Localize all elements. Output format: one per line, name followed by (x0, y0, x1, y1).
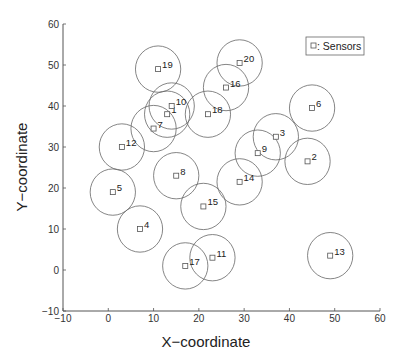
sensor-id-label: 19 (162, 59, 173, 70)
sensor-point: 12 (119, 137, 136, 150)
x-tick-label: 20 (193, 313, 205, 324)
sensor-square-icon (169, 104, 174, 109)
sensor-square-icon (224, 85, 229, 90)
sensor-square-icon (210, 255, 215, 260)
sensor-square-icon (255, 151, 260, 156)
sensor-point: 20 (237, 53, 254, 65)
sensor-square-icon (201, 204, 206, 209)
y-tick-label: 50 (48, 60, 60, 71)
sensor-id-label: 14 (244, 172, 255, 183)
sensor-point: 16 (224, 78, 241, 91)
sensor-square-icon (237, 60, 242, 65)
sensor-square-icon (328, 253, 333, 258)
sensor-id-label: 16 (230, 78, 241, 89)
legend-label: : Sensors (317, 40, 361, 52)
sensor-square-icon (305, 159, 310, 164)
sensor-point: 11 (210, 248, 226, 261)
sensor-square-icon (174, 173, 179, 178)
sensor-square-icon (237, 179, 242, 184)
sensor-id-label: 7 (158, 119, 163, 130)
sensor-point: 2 (305, 151, 317, 164)
x-tick-label: 10 (148, 313, 160, 324)
sensor-id-label: 6 (316, 98, 321, 109)
sensor-square-icon (165, 112, 170, 117)
sensor-id-label: 15 (207, 196, 218, 207)
sensor-point: 19 (156, 59, 173, 72)
sensor-id-label: 2 (312, 151, 317, 162)
sensor-square-icon (310, 106, 315, 111)
y-tick-label: 20 (48, 183, 60, 194)
sensor-id-label: 18 (212, 104, 223, 115)
sensor-id-label: 12 (126, 137, 137, 148)
sensor-point: 4 (137, 219, 149, 232)
sensor-point: 18 (205, 104, 222, 117)
sensor-id-label: 17 (189, 256, 200, 267)
sensor-point: 6 (310, 98, 322, 111)
sensor-id-label: 8 (180, 166, 185, 177)
sensor-square-icon (137, 227, 142, 232)
sensor-id-label: 13 (334, 246, 345, 257)
sensor-scatter-chart: −100102030405060−100102030405060 1234567… (0, 0, 403, 361)
sensor-point: 3 (273, 127, 285, 140)
x-axis-title: X−coordinate (162, 333, 251, 350)
sensor-square-icon (119, 145, 124, 150)
sensor-id-label: 20 (244, 53, 255, 64)
sensor-square-icon (183, 263, 188, 268)
sensor-square-icon (151, 126, 156, 131)
y-tick-label: 40 (48, 101, 60, 112)
x-tick-label: 50 (329, 313, 341, 324)
sensor-square-icon (156, 67, 161, 72)
sensor-id-label: 3 (280, 127, 285, 138)
y-tick-label: 60 (48, 19, 60, 30)
legend: : Sensors (306, 37, 364, 55)
sensor-id-label: 5 (117, 182, 122, 193)
y-tick-label: 30 (48, 142, 60, 153)
sensor-id-label: 9 (262, 143, 267, 154)
sensor-point: 5 (110, 182, 122, 195)
sensor-point: 13 (328, 246, 345, 259)
x-tick-label: 0 (106, 313, 112, 324)
sensor-point: 7 (151, 119, 163, 132)
x-tick-label: 60 (374, 313, 386, 324)
sensor-point: 10 (169, 96, 186, 109)
y-tick-label: 10 (48, 224, 60, 235)
sensor-square-icon (273, 134, 278, 139)
sensor-point: 14 (237, 172, 254, 185)
x-tick-label: 40 (284, 313, 296, 324)
x-tick-label: 30 (239, 313, 251, 324)
sensor-square-icon (110, 190, 115, 195)
sensor-id-label: 4 (144, 219, 149, 230)
y-tick-label: 0 (53, 265, 59, 276)
sensor-id-label: 11 (216, 248, 226, 259)
y-tick-label: −10 (42, 306, 59, 317)
sensor-point: 8 (174, 166, 186, 179)
sensor-id-label: 10 (176, 96, 187, 107)
y-axis-title: Y−coordinate (13, 123, 30, 212)
sensor-square-icon (205, 112, 210, 117)
sensor-point: 17 (183, 256, 200, 269)
sensor-point: 15 (201, 196, 218, 209)
